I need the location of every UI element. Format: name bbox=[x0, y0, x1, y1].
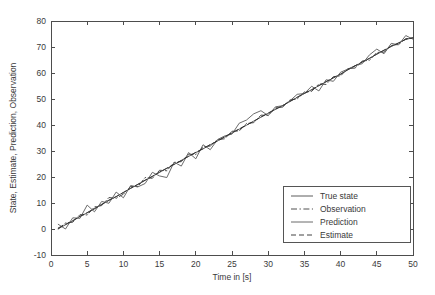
x-tick-label: 20 bbox=[191, 259, 201, 269]
x-axis-label: Time in [s] bbox=[213, 272, 252, 282]
x-tick-label: 10 bbox=[119, 259, 129, 269]
x-tick-label: 5 bbox=[85, 259, 90, 269]
x-tick-label: 40 bbox=[336, 259, 346, 269]
y-tick-label: -10 bbox=[34, 250, 47, 260]
legend-label-prediction: Prediction bbox=[320, 217, 358, 227]
legend-label-estimate: Estimate bbox=[320, 230, 353, 240]
y-tick-label: 80 bbox=[37, 16, 47, 26]
x-tick-label: 45 bbox=[372, 259, 382, 269]
y-tick-label: 10 bbox=[37, 198, 47, 208]
legend-label-true-state: True state bbox=[320, 191, 358, 201]
y-tick-label: 60 bbox=[37, 68, 47, 78]
plot-background bbox=[0, 0, 435, 295]
y-tick-label: 30 bbox=[37, 146, 47, 156]
x-tick-label: 30 bbox=[263, 259, 273, 269]
chart-plot: 05101520253035404550 -100102030405060708… bbox=[0, 0, 435, 295]
figure-canvas: 05101520253035404550 -100102030405060708… bbox=[0, 0, 435, 295]
y-tick-label: 0 bbox=[41, 224, 46, 234]
x-tick-label: 50 bbox=[408, 259, 418, 269]
x-tick-label: 15 bbox=[155, 259, 165, 269]
legend-label-observation: Observation bbox=[320, 204, 366, 214]
x-tick-label: 35 bbox=[300, 259, 310, 269]
x-tick-label: 0 bbox=[49, 259, 54, 269]
y-tick-label: 40 bbox=[37, 120, 47, 130]
y-tick-label: 20 bbox=[37, 172, 47, 182]
chart-legend[interactable]: True stateObservationPredictionEstimate bbox=[283, 186, 410, 242]
x-tick-label: 25 bbox=[227, 259, 237, 269]
y-axis-label: State, Estimate, Prediction, Observation bbox=[8, 62, 18, 213]
y-tick-label: 50 bbox=[37, 94, 47, 104]
y-tick-label: 70 bbox=[37, 42, 47, 52]
